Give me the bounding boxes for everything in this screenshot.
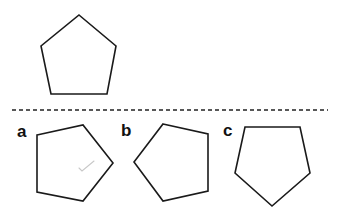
option-c[interactable]: c [223,121,310,206]
option-c-label: c [223,121,232,140]
reference-pentagon [41,15,116,94]
option-b-label: b [121,121,131,140]
option-a-pentagon[interactable] [37,125,113,201]
pencil-check-mark [79,161,94,171]
pentagon-rotation-diagram: a b c [0,0,340,216]
option-b[interactable]: b [121,121,208,201]
option-b-pentagon[interactable] [134,124,208,201]
option-a[interactable]: a [17,122,113,201]
option-a-label: a [17,122,27,141]
option-c-pentagon[interactable] [235,127,310,206]
